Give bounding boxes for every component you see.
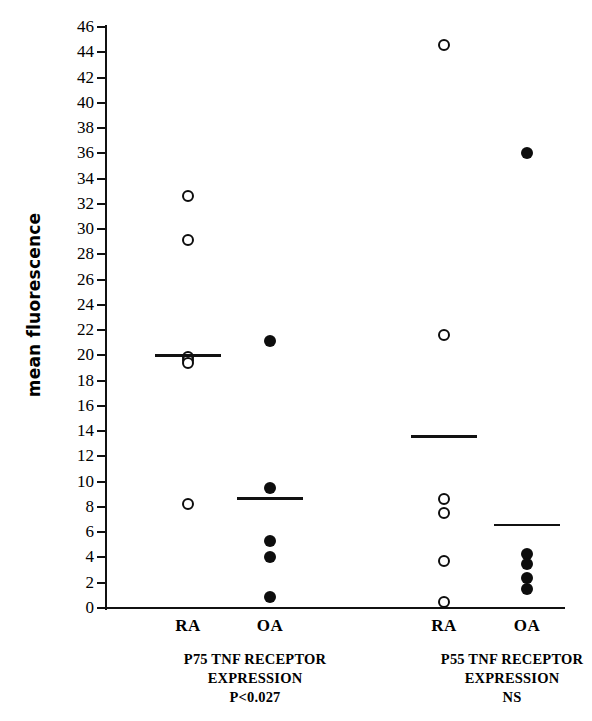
- data-point: [264, 535, 276, 547]
- panel-caption: P55 TNF RECEPTOREXPRESSIONNS: [392, 650, 592, 707]
- mean-line: [411, 435, 477, 437]
- y-tick-label: 28: [56, 245, 94, 262]
- y-tick-label: 40: [56, 94, 94, 111]
- panel-caption: P75 TNF RECEPTOREXPRESSIONP<0.027: [135, 650, 375, 707]
- x-axis-label-ra: RA: [148, 616, 228, 636]
- y-tick-mark: [97, 329, 105, 331]
- y-tick-label: 36: [56, 144, 94, 161]
- mean-line: [155, 354, 221, 356]
- y-tick-label: 14: [56, 422, 94, 439]
- y-tick-mark: [97, 506, 105, 508]
- mean-line: [494, 524, 560, 526]
- y-tick-mark: [97, 178, 105, 180]
- y-tick-mark: [97, 127, 105, 129]
- y-tick-mark: [97, 51, 105, 53]
- data-point: [521, 583, 533, 595]
- y-tick-mark: [97, 455, 105, 457]
- y-tick-label: 26: [56, 271, 94, 288]
- y-tick-label: 18: [56, 372, 94, 389]
- y-tick-label: 34: [56, 170, 94, 187]
- y-tick-mark: [97, 279, 105, 281]
- panel-caption-line-1: P75 TNF RECEPTOR: [135, 650, 375, 669]
- y-tick-label: 12: [56, 447, 94, 464]
- data-point: [521, 558, 533, 570]
- y-tick-label: 4: [56, 548, 94, 565]
- x-axis-label-oa: OA: [230, 616, 310, 636]
- y-tick-mark: [97, 26, 105, 28]
- y-tick-label: 16: [56, 397, 94, 414]
- y-tick-label: 10: [56, 473, 94, 490]
- y-tick-mark: [97, 354, 105, 356]
- data-point: [438, 555, 450, 567]
- panel-caption-line-3: NS: [392, 688, 592, 707]
- y-tick-label: 24: [56, 296, 94, 313]
- y-tick-label: 0: [56, 599, 94, 616]
- data-point: [182, 498, 194, 510]
- y-tick-mark: [97, 77, 105, 79]
- data-point: [438, 329, 450, 341]
- y-tick-mark: [97, 481, 105, 483]
- y-tick-mark: [97, 253, 105, 255]
- data-point: [182, 190, 194, 202]
- y-tick-mark: [97, 531, 105, 533]
- y-tick-mark: [97, 582, 105, 584]
- data-point: [264, 482, 276, 494]
- data-point: [182, 234, 194, 246]
- y-tick-label: 22: [56, 321, 94, 338]
- y-axis-line: [105, 25, 107, 610]
- y-tick-mark: [97, 405, 105, 407]
- y-tick-label: 42: [56, 69, 94, 86]
- y-tick-mark: [97, 228, 105, 230]
- data-point: [521, 572, 533, 584]
- x-axis-label-ra: RA: [404, 616, 484, 636]
- x-axis-line: [105, 607, 565, 609]
- y-axis-title: mean fluorescence: [24, 185, 44, 425]
- panel-caption-line-3: P<0.027: [135, 688, 375, 707]
- panel-caption-line-2: EXPRESSION: [135, 669, 375, 688]
- data-point: [438, 493, 450, 505]
- scatter-plot-figure: mean fluorescence 0246810121416182022242…: [0, 0, 592, 721]
- y-tick-label: 2: [56, 574, 94, 591]
- y-tick-label: 38: [56, 119, 94, 136]
- y-tick-label: 6: [56, 523, 94, 540]
- y-tick-mark: [97, 203, 105, 205]
- y-tick-mark: [97, 102, 105, 104]
- data-point: [521, 147, 533, 159]
- y-tick-mark: [97, 304, 105, 306]
- y-tick-label: 32: [56, 195, 94, 212]
- y-tick-mark: [97, 380, 105, 382]
- y-tick-label: 20: [56, 346, 94, 363]
- x-axis-label-oa: OA: [487, 616, 567, 636]
- y-tick-mark: [97, 152, 105, 154]
- data-point: [182, 357, 194, 369]
- y-tick-mark: [97, 607, 105, 609]
- y-tick-label: 46: [56, 18, 94, 35]
- data-point: [264, 591, 276, 603]
- panel-caption-line-2: EXPRESSION: [392, 669, 592, 688]
- y-tick-label: 30: [56, 220, 94, 237]
- data-point: [264, 335, 276, 347]
- y-tick-label: 8: [56, 498, 94, 515]
- mean-line: [237, 497, 303, 499]
- data-point: [438, 507, 450, 519]
- y-tick-mark: [97, 430, 105, 432]
- y-tick-label: 44: [56, 43, 94, 60]
- data-point: [438, 39, 450, 51]
- data-point: [264, 551, 276, 563]
- panel-caption-line-1: P55 TNF RECEPTOR: [392, 650, 592, 669]
- y-tick-mark: [97, 556, 105, 558]
- data-point: [438, 596, 450, 608]
